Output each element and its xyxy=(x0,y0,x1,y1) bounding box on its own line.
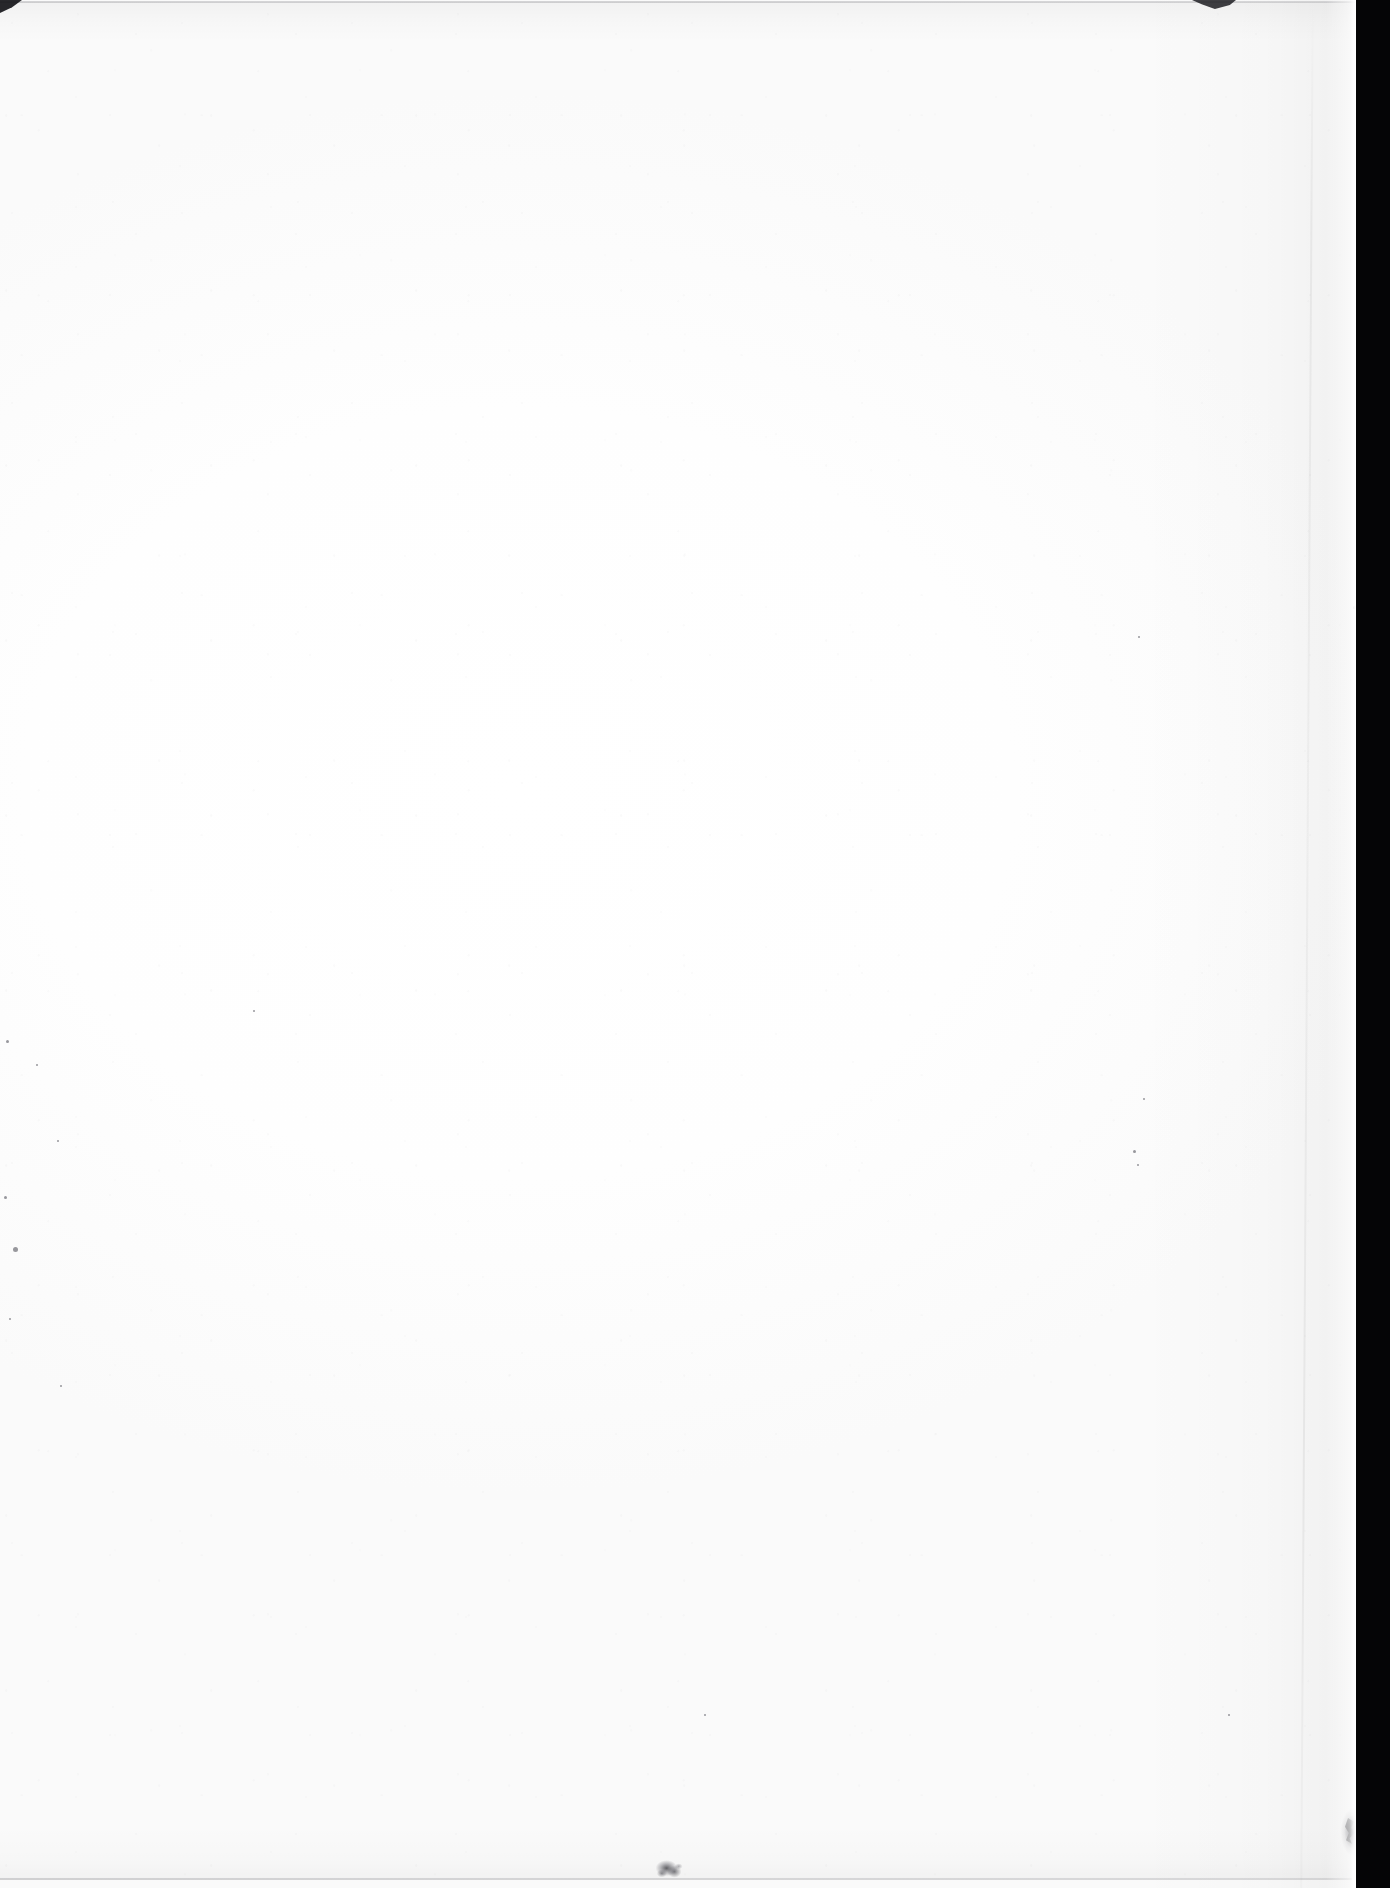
dust-speck xyxy=(57,1140,59,1142)
dust-speck xyxy=(36,1064,38,1066)
paper-grain-texture xyxy=(0,0,1364,1888)
ink-blot-icon xyxy=(654,1858,684,1880)
dust-speck xyxy=(6,1040,9,1043)
scanned-page-canvas xyxy=(0,0,1390,1888)
dust-speck xyxy=(1138,636,1140,638)
top-tone-band xyxy=(0,2,1360,42)
dust-speck xyxy=(9,1318,11,1320)
scanner-gutter-band xyxy=(1356,0,1390,1888)
corner-nick-top-left-icon xyxy=(0,0,22,13)
dust-speck xyxy=(1133,1150,1136,1153)
dust-speck xyxy=(4,1196,7,1199)
page-edge-line-top xyxy=(0,1,1360,3)
dust-speck xyxy=(1143,1098,1145,1100)
dust-speck xyxy=(1228,1714,1230,1716)
page-crease xyxy=(1300,0,1314,1888)
dust-speck xyxy=(1137,1164,1139,1166)
dust-speck xyxy=(13,1247,18,1252)
paper-sheet xyxy=(0,0,1364,1888)
dust-speck xyxy=(253,1010,255,1012)
gutter-shadow-gradient xyxy=(1134,0,1364,1888)
edge-notch-top-icon xyxy=(1192,0,1236,9)
dust-speck xyxy=(60,1385,62,1387)
dust-speck xyxy=(704,1714,706,1716)
